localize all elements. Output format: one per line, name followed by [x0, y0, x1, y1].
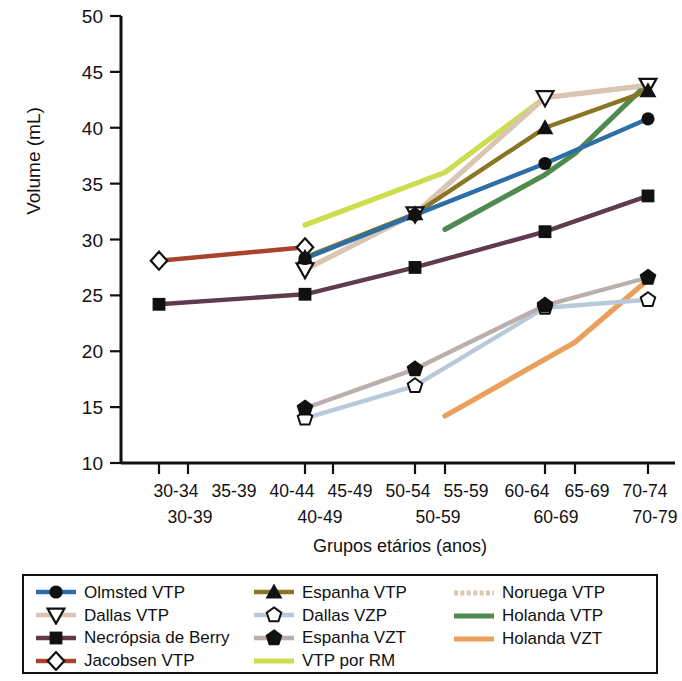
legend-column: Espanha VTPDallas VZPEspanha VZTVTP por … — [252, 581, 452, 672]
figure-container: 10152025303540455030-3435-3940-4445-4950… — [0, 0, 682, 681]
x-tick-label-5yr: 60-64 — [505, 481, 550, 501]
data-point-diamond-open — [151, 252, 167, 270]
y-tick-label: 40 — [82, 118, 103, 139]
axes: 10152025303540455030-3435-3940-4445-4950… — [82, 6, 678, 527]
y-tick-label: 15 — [82, 397, 103, 418]
series-line — [305, 278, 648, 409]
y-axis-title: Volume (mL) — [23, 81, 45, 241]
legend-label: Olmsted VTP — [84, 584, 185, 601]
x-tick-label-10yr: 50-59 — [416, 507, 461, 527]
legend-item[interactable]: Espanha VTP — [252, 581, 452, 604]
series-jacobsen-vtp — [159, 247, 305, 260]
legend-item[interactable]: Necrópsia de Berry — [34, 627, 252, 650]
line-chart: 10152025303540455030-3435-3940-4445-4950… — [0, 0, 682, 570]
legend-item[interactable]: Holanda VZT — [452, 627, 642, 650]
series-espanha-vzt — [305, 278, 648, 409]
legend-symbol-icon — [34, 582, 78, 602]
data-point-pentagon-open — [267, 608, 281, 622]
data-point-diamond-open — [48, 652, 64, 670]
legend-label: Dallas VZP — [302, 607, 387, 624]
data-point-square-filled — [299, 288, 312, 301]
data-point-pentagon-filled — [641, 270, 655, 284]
series-necr-psia-de-berry — [159, 196, 648, 304]
y-tick-label: 30 — [82, 230, 103, 251]
data-point-pentagon-filled — [298, 401, 312, 415]
legend-item[interactable]: Olmsted VTP — [34, 581, 252, 604]
series-line — [305, 85, 648, 269]
legend-label: Espanha VZT — [302, 629, 406, 646]
data-point-circle-filled — [641, 112, 654, 125]
legend-label: Holanda VTP — [502, 607, 603, 624]
x-tick-label-5yr: 45-49 — [328, 481, 373, 501]
legend-column: Olmsted VTPDallas VTPNecrópsia de BerryJ… — [34, 581, 252, 672]
legend-symbol-icon — [252, 605, 296, 625]
series-line — [159, 196, 648, 304]
legend-symbol-icon — [252, 628, 296, 648]
data-point-circle-filled — [49, 586, 62, 599]
data-point-square-filled — [153, 298, 166, 311]
x-tick-label-10yr: 60-69 — [534, 507, 579, 527]
x-tick-label-10yr: 70-79 — [633, 507, 678, 527]
legend-item[interactable]: Dallas VTP — [34, 604, 252, 627]
legend-label: VTP por RM — [302, 652, 395, 669]
data-point-circle-filled — [298, 252, 311, 265]
y-tick-label: 25 — [82, 285, 103, 306]
legend-symbol-icon — [252, 651, 296, 671]
legend-symbol-icon — [252, 582, 296, 602]
legend-symbol-icon — [452, 629, 496, 649]
y-tick-label: 10 — [82, 453, 103, 474]
legend-label: Holanda VZT — [502, 630, 602, 647]
data-point-square-filled — [642, 190, 655, 203]
series-line — [305, 119, 648, 259]
data-point-triangle-down-open — [297, 263, 314, 278]
legend-item[interactable]: Holanda VTP — [452, 604, 642, 627]
markers-necr-psia-de-berry — [153, 190, 655, 311]
legend: Olmsted VTPDallas VTPNecrópsia de BerryJ… — [22, 574, 658, 674]
legend-item[interactable]: Espanha VZT — [252, 627, 452, 650]
series-line — [159, 247, 305, 260]
legend-symbol-icon — [452, 583, 496, 603]
legend-symbol-icon — [452, 606, 496, 626]
series-dallas-vtp — [305, 85, 648, 269]
x-tick-label-5yr: 55-59 — [444, 481, 489, 501]
legend-columns: Olmsted VTPDallas VTPNecrópsia de BerryJ… — [24, 576, 656, 672]
y-tick-label: 20 — [82, 341, 103, 362]
series-olmsted-vtp — [305, 119, 648, 259]
legend-item[interactable]: Jacobsen VTP — [34, 649, 252, 672]
legend-item[interactable]: Noruega VTP — [452, 581, 642, 604]
x-tick-label-5yr: 35-39 — [212, 481, 257, 501]
x-tick-label-5yr: 70-74 — [623, 481, 668, 501]
legend-label: Espanha VTP — [302, 584, 407, 601]
y-tick-label: 45 — [82, 62, 103, 83]
data-point-pentagon-filled — [267, 630, 281, 644]
series-group — [151, 79, 657, 425]
legend-symbol-icon — [34, 605, 78, 625]
legend-column: Noruega VTPHolanda VTPHolanda VZT — [452, 581, 642, 672]
x-tick-label-5yr: 30-34 — [154, 481, 199, 501]
x-axis-title: Grupos etários (anos) — [120, 536, 680, 557]
legend-item[interactable]: Dallas VZP — [252, 604, 452, 627]
data-point-circle-filled — [408, 208, 421, 221]
legend-label: Necrópsia de Berry — [84, 629, 230, 646]
x-tick-label-5yr: 40-44 — [270, 481, 315, 501]
y-tick-label: 35 — [82, 174, 103, 195]
legend-label: Noruega VTP — [502, 584, 605, 601]
legend-item[interactable]: VTP por RM — [252, 649, 452, 672]
legend-label: Jacobsen VTP — [84, 652, 195, 669]
data-point-square-filled — [50, 631, 63, 644]
series-espanha-vtp — [305, 91, 648, 258]
data-point-pentagon-filled — [538, 298, 552, 312]
data-point-pentagon-filled — [408, 362, 422, 376]
data-point-square-filled — [409, 261, 422, 274]
x-tick-label-5yr: 50-54 — [386, 481, 431, 501]
data-point-circle-filled — [538, 157, 551, 170]
y-tick-label: 50 — [82, 6, 103, 27]
x-tick-label-10yr: 40-49 — [298, 507, 343, 527]
series-line — [305, 91, 648, 258]
x-tick-label-10yr: 30-39 — [168, 507, 213, 527]
x-tick-label-5yr: 65-69 — [565, 481, 610, 501]
legend-label: Dallas VTP — [84, 607, 169, 624]
data-point-pentagon-open — [641, 292, 655, 306]
data-point-square-filled — [539, 225, 552, 238]
legend-symbol-icon — [34, 651, 78, 671]
